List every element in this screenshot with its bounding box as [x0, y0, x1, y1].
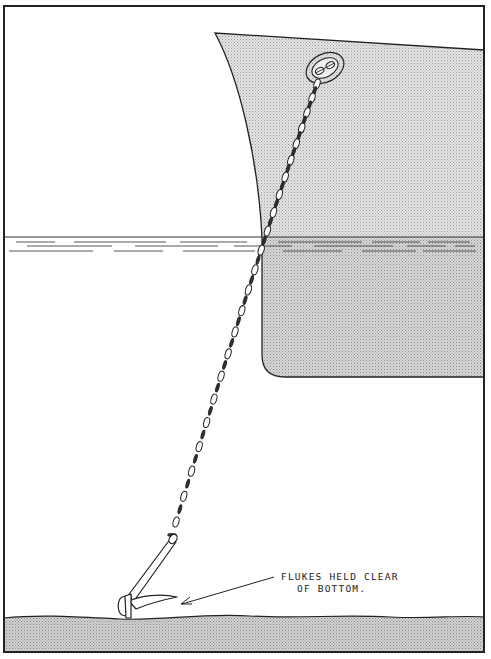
anchor [118, 533, 178, 618]
chain-link [200, 430, 205, 439]
chain-link [215, 383, 220, 392]
chain-link [249, 275, 254, 284]
annotation-line-2: OF BOTTOM. [297, 583, 366, 594]
chain-link [193, 454, 198, 463]
chain-link [217, 370, 225, 382]
chain-link [231, 326, 239, 338]
chain-link [195, 441, 203, 453]
annotation-arrow [181, 577, 274, 604]
chain-link [202, 417, 210, 429]
hull-below-water [262, 237, 484, 377]
chain-link [185, 479, 190, 488]
chain-link [177, 504, 182, 513]
anchor-stock [125, 594, 131, 618]
chain-link [210, 393, 218, 405]
hull-above-water [215, 33, 484, 237]
chain-link [251, 264, 260, 276]
anchor-shank [127, 538, 176, 601]
anchor-diagram: FLUKES HELD CLEAR OF BOTTOM. [0, 0, 491, 659]
sea-bottom [4, 615, 484, 652]
chain-link [187, 465, 195, 477]
chain-link [208, 406, 213, 415]
chain-link [229, 338, 234, 347]
chain-link [238, 305, 246, 317]
annotation-line-1: FLUKES HELD CLEAR [281, 571, 399, 582]
chain-link [224, 348, 232, 360]
seabed-fill [4, 615, 484, 652]
chain-link [244, 284, 252, 296]
chain-link [242, 295, 247, 304]
chain-link [255, 255, 260, 264]
chain-link [180, 491, 188, 503]
ship-hull [215, 33, 484, 377]
chain-link [236, 316, 241, 325]
chain-link [172, 516, 180, 528]
chain-link [222, 360, 227, 369]
